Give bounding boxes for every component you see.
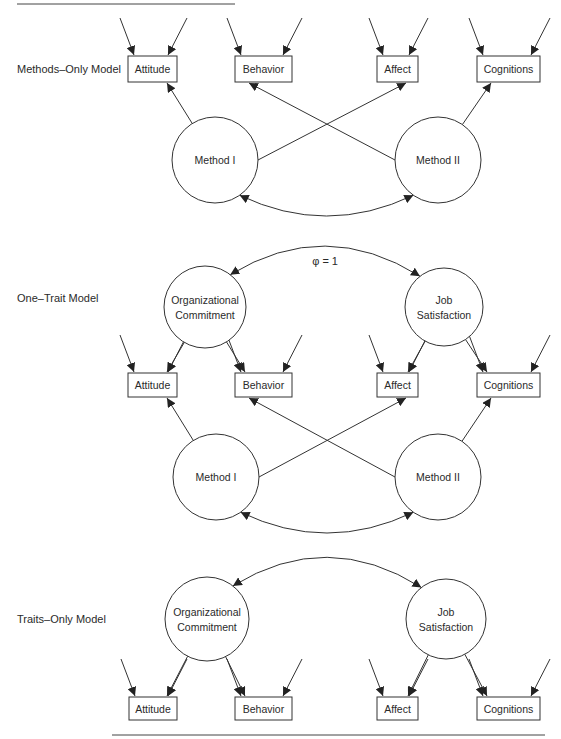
observed-label: Attitude: [135, 379, 171, 391]
phi-label: φ = 1: [312, 255, 338, 267]
latent-label: Satisfaction: [419, 621, 473, 633]
error-arrow: [120, 335, 134, 372]
trait-correlation-arrow: [233, 557, 422, 587]
loading-arrow-method-1-to-attitude: [167, 83, 192, 124]
latent-method-2: Method II: [395, 117, 481, 203]
mtmm-diagram: Methods–Only ModelAttitudeBehaviorAffect…: [0, 0, 561, 739]
error-arrow: [227, 18, 241, 55]
observed-affect: Affect: [377, 697, 418, 720]
error-arrow: [369, 659, 383, 696]
error-arrow: [168, 659, 187, 696]
observed-label: Cognitions: [484, 379, 534, 391]
panel-label: Traits–Only Model: [17, 613, 106, 625]
loading-arrow-job-satisfaction-to-cognitions: [466, 340, 487, 372]
latent-org-commitment: OrganizationalCommitment: [165, 577, 249, 661]
observed-attitude: Attitude: [128, 56, 177, 82]
error-arrow: [409, 18, 428, 55]
observed-cognitions: Cognitions: [477, 697, 540, 720]
method-correlation-arrow: [241, 512, 414, 533]
loading-arrow-job-satisfaction-to-cognitions: [465, 654, 487, 696]
observed-label: Affect: [384, 703, 411, 715]
latent-label: Organizational: [173, 606, 241, 618]
loading-arrow-org-commitment-to-behavior: [226, 342, 245, 372]
latent-method-2: Method II: [395, 434, 481, 520]
observed-attitude: Attitude: [128, 373, 177, 397]
observed-affect: Affect: [377, 56, 418, 82]
loading-arrow-method-1-to-affect: [259, 398, 406, 477]
latent-label: Satisfaction: [417, 309, 471, 321]
latent-label: Job: [436, 294, 453, 306]
loading-arrow-org-commitment-to-attitude: [167, 656, 188, 696]
observed-label: Affect: [384, 63, 411, 75]
error-arrow: [168, 18, 187, 55]
observed-label: Behavior: [243, 63, 285, 75]
observed-label: Behavior: [243, 379, 285, 391]
latent-label: Commitment: [175, 309, 235, 321]
observed-cognitions: Cognitions: [477, 373, 540, 397]
latent-label: Method II: [416, 471, 460, 483]
error-arrow: [409, 659, 428, 696]
error-arrow: [469, 659, 483, 696]
loading-arrow-method-2-to-behavior: [249, 398, 395, 477]
latent-method-1: Method I: [173, 434, 259, 520]
latent-label: Method II: [416, 154, 460, 166]
error-arrow: [369, 335, 383, 372]
loading-arrow-job-satisfaction-to-affect: [408, 341, 425, 372]
panel-methods-only: Methods–Only ModelAttitudeBehaviorAffect…: [17, 18, 550, 216]
observed-label: Cognitions: [484, 703, 534, 715]
observed-label: Affect: [384, 379, 411, 391]
latent-label: Job: [438, 606, 455, 618]
loading-arrow-method-2-to-cognitions: [462, 83, 491, 125]
panel-label: Methods–Only Model: [17, 63, 121, 75]
loading-arrow-org-commitment-to-attitude: [167, 342, 184, 372]
loading-arrow-method-1-to-affect: [258, 83, 406, 160]
method-correlation-arrow: [240, 195, 414, 216]
latent-label: Method I: [196, 471, 237, 483]
latent-label: Organizational: [171, 294, 239, 306]
observed-behavior: Behavior: [235, 373, 292, 397]
error-arrow: [469, 18, 483, 55]
latent-method-1: Method I: [172, 117, 258, 203]
error-arrow: [369, 18, 383, 55]
observed-label: Attitude: [135, 703, 171, 715]
error-arrow: [469, 335, 483, 372]
error-arrow: [283, 659, 302, 696]
latent-label: Method I: [195, 154, 236, 166]
error-arrow: [531, 659, 550, 696]
loading-arrow-org-commitment-to-behavior: [226, 657, 245, 696]
loading-arrow-job-satisfaction-to-affect: [408, 655, 428, 696]
latent-job-satisfaction: JobSatisfaction: [405, 268, 483, 346]
loading-arrow-method-2-to-cognitions: [462, 398, 491, 441]
observed-attitude: Attitude: [129, 697, 177, 720]
latent-org-commitment: OrganizationalCommitment: [164, 266, 246, 348]
panel-label: One–Trait Model: [17, 292, 99, 304]
observed-affect: Affect: [377, 373, 418, 397]
latent-label: Commitment: [177, 621, 237, 633]
observed-behavior: Behavior: [235, 697, 292, 720]
error-arrow: [121, 659, 135, 696]
panel-traits-only: Traits–Only ModelAttitudeBehaviorAffectC…: [17, 557, 550, 720]
panel-one-trait: One–Trait Modelφ = 1AttitudeBehaviorAffe…: [17, 246, 550, 533]
error-arrow: [531, 18, 550, 55]
loading-arrow-method-1-to-attitude: [167, 398, 193, 440]
error-arrow: [531, 335, 550, 372]
observed-label: Attitude: [135, 63, 171, 75]
observed-label: Behavior: [243, 703, 285, 715]
observed-label: Cognitions: [484, 63, 534, 75]
latent-job-satisfaction: JobSatisfaction: [406, 579, 486, 659]
loading-arrow-method-2-to-behavior: [249, 83, 395, 160]
error-arrow: [283, 18, 302, 55]
error-arrow: [120, 18, 134, 55]
observed-cognitions: Cognitions: [477, 56, 540, 82]
observed-behavior: Behavior: [235, 56, 292, 82]
error-arrow: [283, 335, 302, 372]
